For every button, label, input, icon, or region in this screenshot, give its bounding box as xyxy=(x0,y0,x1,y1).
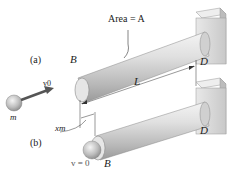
ball-a xyxy=(6,95,22,111)
mass-label: m xyxy=(10,113,17,122)
point-b-top-label: B xyxy=(70,54,77,65)
point-d-bottom-label: D xyxy=(200,125,208,136)
ball-b xyxy=(83,141,101,159)
rod-b xyxy=(91,102,210,160)
point-b-bottom-label: B xyxy=(104,158,111,169)
point-d-top-label: D xyxy=(200,56,208,67)
part-b-label: (b) xyxy=(30,138,42,148)
deflection-label: xm xyxy=(55,124,66,133)
length-label: L xyxy=(134,76,140,87)
velocity-initial-label: v0 xyxy=(43,80,51,88)
velocity-arrow-icon xyxy=(21,86,54,100)
impact-rod-diagram: Area = A (a) B D v0 m L (b) xm D v = 0 B xyxy=(0,0,234,174)
area-label: Area = A xyxy=(108,14,145,24)
part-a-label: (a) xyxy=(30,55,41,65)
velocity-final-label: v = 0 xyxy=(71,159,90,168)
